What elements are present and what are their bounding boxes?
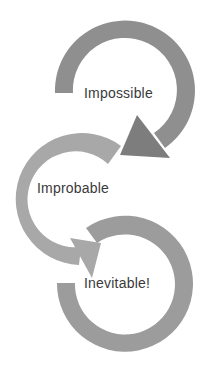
stage-label-improbable: Improbable: [37, 180, 109, 196]
arrow-improbable: [16, 133, 121, 278]
arc-improbable: [16, 133, 121, 265]
stage-label-impossible: Impossible: [84, 85, 153, 101]
stage-label-inevitable: Inevitable!: [84, 275, 150, 291]
